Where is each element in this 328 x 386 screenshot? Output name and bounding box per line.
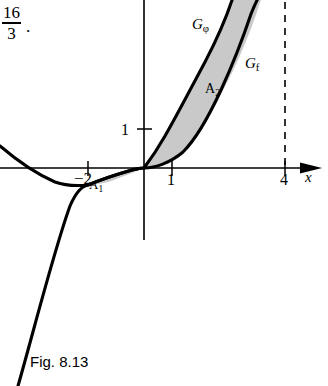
curve-label-g-f-sub: f — [256, 61, 260, 73]
figure-container: 16 3 . −2 1 4 1 x Gφ Gf A2 A1 Fig. 8.13 — [0, 0, 328, 386]
curve-label-g-phi-main: G — [192, 16, 203, 32]
region-label-a2-main: A — [205, 81, 215, 96]
curve-label-g-f-main: G — [245, 55, 256, 71]
x-axis-label: x — [305, 170, 312, 185]
fraction-16-over-3: 16 3 — [2, 4, 21, 42]
figure-plot — [0, 0, 328, 386]
y-tick-label-1: 1 — [121, 122, 129, 138]
figure-caption: Fig. 8.13 — [30, 354, 88, 369]
region-label-a2-sub: 2 — [215, 87, 220, 98]
curve-label-g-phi-sub: φ — [203, 22, 209, 34]
fraction-period: . — [21, 9, 30, 37]
region-label-a1-sub: 1 — [98, 184, 103, 194]
fraction-denominator: 3 — [6, 24, 17, 42]
region-label-a1-main: A — [89, 177, 98, 192]
x-tick-label-4: 4 — [280, 172, 288, 188]
region-label-a2: A2 — [205, 82, 220, 98]
fraction-numerator: 16 — [2, 4, 21, 22]
fraction-annotation: 16 3 . — [2, 4, 30, 42]
curve-label-g-phi: Gφ — [192, 17, 209, 34]
x-tick-label-1: 1 — [167, 172, 175, 188]
region-label-a1: A1 — [89, 178, 103, 194]
curve-label-g-f: Gf — [245, 56, 259, 73]
